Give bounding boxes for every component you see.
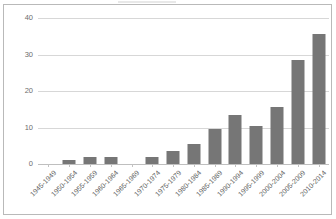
bar[interactable] [271,107,284,164]
bar[interactable] [208,129,221,164]
bar-slot [80,18,101,164]
bar[interactable] [146,157,159,164]
bar-slot [204,18,225,164]
bar[interactable] [312,34,325,164]
y-axis-tick-label: 20 [25,87,33,95]
bar-slot [184,18,205,164]
x-axis-labels: 1945-19491950-19541955-19591960-19641965… [38,165,329,215]
bar[interactable] [83,157,96,164]
bar[interactable] [187,144,200,164]
bar[interactable] [229,115,242,164]
bar-series [38,18,329,164]
plot-wrapper: 010203040 1945-19491950-19541955-1959196… [4,5,331,214]
bar-slot [246,18,267,164]
y-axis-tick-label: 0 [29,160,33,168]
y-axis-tick-label: 10 [25,124,33,132]
artifact-smudge [118,1,176,3]
bar-slot [38,18,59,164]
bar-slot [225,18,246,164]
y-axis-tick-label: 30 [25,51,33,59]
bar-slot [267,18,288,164]
bar-slot [287,18,308,164]
bar-slot [163,18,184,164]
bar[interactable] [291,60,304,164]
bar-slot [308,18,329,164]
bar-slot [142,18,163,164]
chart-frame: 010203040 1945-19491950-19541955-1959196… [3,4,332,215]
plot-area: 010203040 [38,18,329,164]
bar-slot [100,18,121,164]
bar-slot [121,18,142,164]
bar[interactable] [167,151,180,164]
bar-slot [59,18,80,164]
y-axis-tick-label: 40 [25,14,33,22]
bar[interactable] [104,157,117,164]
bar[interactable] [250,126,263,164]
